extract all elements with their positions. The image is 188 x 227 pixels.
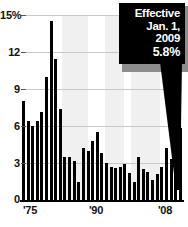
bar-1986: [73, 161, 76, 200]
bar-2002: [146, 172, 149, 200]
y-tick-3-dash: [21, 163, 26, 164]
chart-figure: 15% 12 9 6 3 0 '75 '90 '08 Effective Jan…: [0, 0, 188, 227]
x-tick-90: '90: [89, 204, 103, 216]
y-tick-3: 3: [0, 158, 20, 169]
y-tick-6-dash: [21, 126, 26, 127]
bar-1982: [54, 59, 57, 200]
callout-line-1: Effective: [123, 7, 180, 20]
y-tick-12: 12: [0, 47, 20, 58]
y-tick-12-label: 12: [8, 46, 20, 58]
bar-1992: [100, 153, 103, 200]
bar-2000: [137, 157, 140, 200]
y-tick-9: 9: [0, 84, 20, 95]
x-tick-75: '75: [23, 204, 37, 216]
bar-1985: [68, 157, 71, 200]
y-tick-3-label: 3: [14, 157, 20, 169]
callout-line-2: Jan. 1,: [123, 20, 180, 33]
y-tick-9-label: 9: [14, 83, 20, 95]
y-tick-15-dash: [21, 15, 26, 16]
x-axis-baseline: [20, 200, 184, 202]
y-tick-6: 6: [0, 121, 20, 132]
bar-1989: [87, 151, 90, 200]
bar-1977: [31, 126, 34, 200]
bar-1998: [128, 173, 131, 200]
bar-1999: [133, 182, 136, 201]
bar-1983: [59, 109, 62, 200]
bar-1997: [123, 164, 126, 200]
y-tick-15-label: 15%: [0, 9, 21, 21]
bar-1987: [77, 182, 80, 201]
y-axis-labels: 15% 12 9 6 3 0: [0, 0, 20, 227]
bar-1979: [40, 112, 43, 200]
callout-value: 5.8%: [123, 45, 180, 59]
bar-1993: [105, 163, 108, 200]
bar-1990: [91, 141, 94, 200]
bar-1991: [96, 132, 99, 200]
bar-1988: [82, 148, 85, 200]
y-tick-0-label: 0: [14, 193, 20, 205]
bar-1981: [50, 21, 53, 200]
bar-1978: [36, 121, 39, 200]
bar-1994: [110, 167, 113, 200]
effective-callout: Effective Jan. 1, 2009 5.8%: [119, 3, 185, 64]
bar-1996: [119, 167, 122, 200]
y-tick-12-dash: [21, 52, 26, 53]
bar-2001: [142, 169, 145, 200]
y-tick-9-dash: [21, 89, 26, 90]
callout-pointer-tail: [160, 62, 182, 190]
bar-1995: [114, 168, 117, 200]
y-tick-0: 0: [0, 194, 20, 205]
x-tick-08: '08: [158, 204, 172, 216]
y-tick-6-label: 6: [14, 120, 20, 132]
bar-1980: [45, 77, 48, 200]
bar-2004: [156, 174, 159, 200]
bar-1984: [63, 157, 66, 200]
bar-2003: [151, 180, 154, 200]
y-tick-15: 15%: [0, 10, 20, 21]
callout-line-3: 2009: [123, 32, 180, 45]
bar-1976: [27, 121, 30, 200]
bar-1975: [22, 101, 25, 200]
